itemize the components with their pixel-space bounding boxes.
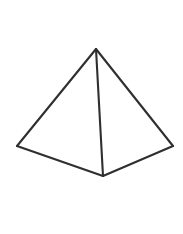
pyramid-svg — [0, 0, 183, 234]
pyramid-figure-canvas — [0, 0, 183, 234]
